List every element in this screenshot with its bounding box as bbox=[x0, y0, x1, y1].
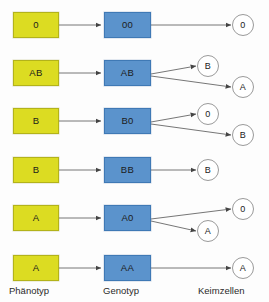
arrow-geno-gamete-2b bbox=[151, 76, 231, 87]
gamete-label: 0 bbox=[240, 21, 245, 30]
phenotype-label: B bbox=[33, 116, 40, 126]
column-label-gametes: Keimzellen bbox=[198, 286, 244, 296]
gamete-circle-row-6-a: A bbox=[232, 257, 254, 279]
phenotype-box-row-3: B bbox=[13, 108, 59, 134]
gamete-circle-row-2-b: A bbox=[232, 76, 254, 98]
phenotype-label: AB bbox=[29, 68, 42, 78]
gamete-circle-row-5-a: 0 bbox=[232, 198, 254, 220]
genotype-box-row-2: AB bbox=[104, 60, 151, 86]
gamete-label: 0 bbox=[240, 205, 245, 214]
phenotype-box-row-2: AB bbox=[13, 60, 59, 86]
phenotype-label: 0 bbox=[33, 20, 39, 30]
gamete-label: A bbox=[240, 264, 246, 273]
genotype-label: AA bbox=[121, 263, 134, 273]
gamete-circle-row-2-a: B bbox=[197, 55, 219, 77]
genotype-label: AB bbox=[121, 68, 134, 78]
arrow-geno-gamete-5b bbox=[151, 221, 196, 231]
gamete-label: B bbox=[240, 131, 246, 140]
phenotype-box-row-4: B bbox=[13, 157, 59, 183]
gamete-circle-row-3-b: B bbox=[232, 124, 254, 146]
column-label-genotype: Genotyp bbox=[103, 286, 139, 296]
genotype-label: BB bbox=[121, 165, 134, 175]
blood-group-inheritance-diagram: 0 00 0 AB AB B A B B0 0 B B BB B A bbox=[0, 0, 269, 302]
gamete-label: A bbox=[240, 83, 246, 92]
phenotype-box-row-1: 0 bbox=[13, 12, 59, 38]
genotype-label: A0 bbox=[121, 213, 133, 223]
genotype-box-row-4: BB bbox=[104, 157, 151, 183]
gamete-label: 0 bbox=[205, 110, 210, 119]
phenotype-box-row-5: A bbox=[13, 205, 59, 231]
phenotype-label: B bbox=[33, 165, 40, 175]
gamete-circle-row-4-a: B bbox=[197, 159, 219, 181]
phenotype-label: A bbox=[33, 263, 40, 273]
gamete-label: A bbox=[205, 227, 211, 236]
gamete-label: B bbox=[205, 166, 211, 175]
arrow-geno-gamete-3a bbox=[151, 114, 196, 122]
phenotype-box-row-6: A bbox=[13, 255, 59, 281]
genotype-label: 00 bbox=[122, 20, 133, 30]
phenotype-label: A bbox=[33, 213, 40, 223]
arrow-geno-gamete-5a bbox=[151, 209, 231, 219]
arrow-geno-gamete-2a bbox=[151, 66, 196, 74]
arrow-geno-gamete-3b bbox=[151, 124, 231, 135]
gamete-circle-row-3-a: 0 bbox=[197, 103, 219, 125]
gamete-label: B bbox=[205, 62, 211, 71]
genotype-label: B0 bbox=[121, 116, 133, 126]
gamete-circle-row-1-a: 0 bbox=[232, 14, 254, 36]
genotype-box-row-6: AA bbox=[104, 255, 151, 281]
gamete-circle-row-5-b: A bbox=[197, 220, 219, 242]
genotype-box-row-1: 00 bbox=[104, 12, 151, 38]
genotype-box-row-3: B0 bbox=[104, 108, 151, 134]
column-label-phenotype: Phänotyp bbox=[9, 286, 49, 296]
genotype-box-row-5: A0 bbox=[104, 205, 151, 231]
